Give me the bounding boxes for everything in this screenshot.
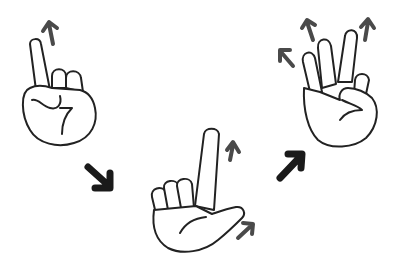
arrow-up-icon bbox=[43, 22, 57, 44]
hand-three-fingers bbox=[303, 30, 377, 146]
transition-arrow-up-right-icon bbox=[280, 154, 302, 178]
transition-arrow-down-right-icon bbox=[88, 167, 110, 188]
arrow-up-icon bbox=[302, 20, 315, 40]
arrow-up-icon bbox=[361, 19, 374, 40]
gesture-diagram bbox=[0, 0, 399, 265]
arrow-up-icon bbox=[227, 142, 239, 160]
arrow-up-left-icon bbox=[280, 50, 293, 66]
hand-one-finger bbox=[23, 39, 96, 145]
arrow-up-right-icon bbox=[238, 223, 253, 238]
